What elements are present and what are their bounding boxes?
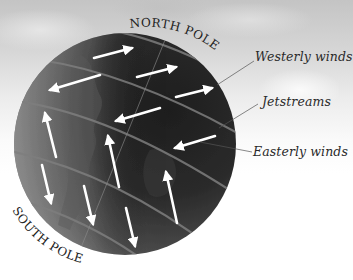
leader-line-westerly — [217, 61, 254, 85]
westerly-winds-label: Westerly winds — [255, 49, 353, 64]
easterly-winds-label: Easterly winds — [253, 144, 348, 159]
jetstreams-label: Jetstreams — [262, 94, 331, 109]
globe — [14, 33, 236, 255]
